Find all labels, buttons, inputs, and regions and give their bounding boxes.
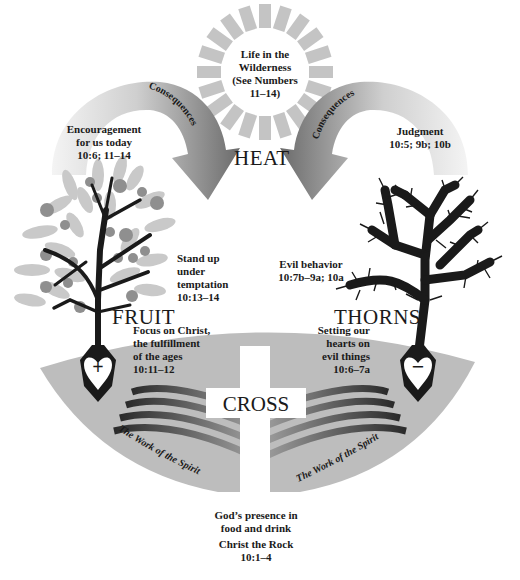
sun-label-line: (See Numbers	[222, 74, 308, 87]
text-line: 10:5; 9b; 10b	[380, 138, 460, 151]
judgment-text: Judgment 10:5; 9b; 10b	[380, 125, 460, 151]
heat-title: HEAT	[234, 146, 290, 171]
sun-label: Life in the Wilderness (See Numbers 11–1…	[222, 48, 308, 100]
sun-label-line: Life in the	[222, 48, 308, 61]
text-line: for us today	[64, 136, 144, 149]
minus-icon: −	[408, 357, 428, 377]
text-line: temptation	[177, 278, 247, 291]
text-line: 10:6; 11–14	[64, 149, 144, 162]
stand-up-text: Stand up under temptation 10:13–14	[177, 252, 247, 304]
cross-title: CROSS	[206, 392, 306, 417]
sun-label-line: 11–14)	[222, 87, 308, 100]
encouragement-text: Encouragement for us today 10:6; 11–14	[64, 123, 144, 162]
text-line: Stand up	[177, 252, 247, 265]
text-line: 10:13–14	[177, 291, 247, 304]
text-line: 10:7b–9a; 10a	[266, 271, 356, 284]
text-line: Encouragement	[64, 123, 144, 136]
text-line: Setting our	[300, 324, 370, 337]
text-line: food and drink	[196, 522, 316, 535]
text-line: Christ the Rock	[196, 538, 316, 551]
text-line: God’s presence in	[196, 509, 316, 522]
text-line: of the ages	[133, 350, 243, 363]
text-line: Judgment	[380, 125, 460, 138]
text-line: Evil behavior	[266, 258, 356, 271]
plus-icon: +	[88, 357, 108, 377]
setting-hearts-text: Setting our hearts on evil things 10:6–7…	[300, 324, 370, 376]
sun-label-line: Wilderness	[222, 61, 308, 74]
text-line: evil things	[300, 350, 370, 363]
text-line: 10:11–12	[133, 363, 243, 376]
text-line: under	[177, 265, 247, 278]
text-line: the fulfillment	[133, 337, 243, 350]
text-line: Focus on Christ,	[133, 324, 243, 337]
text-line: hearts on	[300, 337, 370, 350]
text-line: 10:6–7a	[300, 363, 370, 376]
evil-behavior-text: Evil behavior 10:7b–9a; 10a	[266, 258, 356, 284]
text-line: 10:1–4	[196, 551, 316, 564]
focus-on-christ-text: Focus on Christ, the fulfillment of the …	[133, 324, 243, 376]
gods-presence-text: God’s presence in food and drink Christ …	[196, 509, 316, 564]
